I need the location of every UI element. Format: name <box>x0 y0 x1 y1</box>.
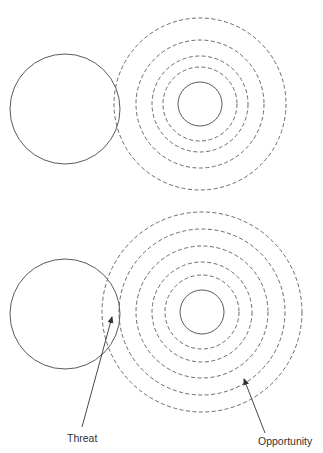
influence-ring-dashed <box>165 275 239 349</box>
threat-label: Threat <box>67 432 97 444</box>
bottom-panel <box>10 212 302 412</box>
influence-ring-dashed <box>136 40 264 168</box>
opportunity-label: Opportunity <box>258 435 313 447</box>
annotations: Threat Opportunity <box>67 317 313 447</box>
environment-circle <box>10 54 120 164</box>
top-panel <box>10 18 286 190</box>
influence-ring-dashed <box>152 56 248 152</box>
core-circle <box>180 290 224 334</box>
influence-ring-dashed <box>163 67 237 141</box>
threat-arrow <box>82 317 112 427</box>
influence-ring-dashed <box>152 262 252 362</box>
influence-ring-dashed <box>119 229 285 395</box>
threat-opportunity-diagram: Threat Opportunity <box>0 0 323 453</box>
opportunity-arrow <box>244 379 265 433</box>
core-circle <box>178 82 222 126</box>
environment-circle <box>10 259 120 369</box>
influence-ring-dashed <box>136 246 268 378</box>
influence-ring-dashed <box>114 18 286 190</box>
influence-ring-dashed <box>102 212 302 412</box>
